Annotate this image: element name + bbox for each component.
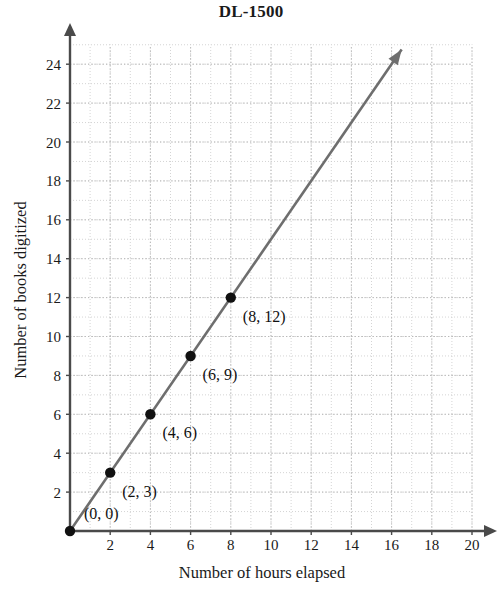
x-tick-label: 16 [384,537,400,553]
x-axis-arrow-icon [484,525,497,537]
y-tick-label: 22 [46,96,61,112]
y-tick-label: 16 [46,212,62,228]
data-point [105,467,115,477]
trend-line-arrow-icon [389,50,402,66]
y-tick-label: 18 [46,173,61,189]
y-tick-label: 12 [46,290,61,306]
x-tick-label: 12 [304,537,319,553]
data-point-label: (2, 3) [122,483,157,501]
data-point [185,351,195,361]
axes [64,23,497,537]
y-tick-label: 2 [54,485,62,501]
data-series-line [70,50,402,531]
data-point [145,409,155,419]
x-tick-label: 18 [424,537,439,553]
data-point-label: (6, 9) [203,366,238,384]
x-tick-label: 20 [465,537,480,553]
trend-line [70,50,402,531]
y-axis-arrow-icon [64,23,76,36]
y-tick-label: 8 [54,368,62,384]
y-tick-label: 4 [54,446,62,462]
x-tick-label: 10 [264,537,279,553]
x-tick-label: 14 [344,537,360,553]
data-point-label: (0, 0) [84,505,119,523]
x-tick-label: 4 [147,537,155,553]
x-tick-label: 2 [106,537,114,553]
data-point-label: (8, 12) [243,308,286,326]
chart-plot: 2468101214161820 24681012141618202224 (0… [0,0,502,593]
y-axis-tick-labels: 24681012141618202224 [46,57,62,501]
y-axis-title: Number of books digitized [11,201,30,379]
y-tick-label: 20 [46,135,61,151]
x-tick-label: 6 [187,537,195,553]
data-point [226,292,236,302]
chart-container: DL-1500 2468101214161820 246810121416182… [0,0,502,593]
x-tick-label: 8 [227,537,235,553]
x-axis-title: Number of hours elapsed [179,563,346,582]
y-tick-label: 24 [46,57,62,73]
y-tick-label: 6 [54,407,62,423]
data-point-labels: (0, 0)(2, 3)(4, 6)(6, 9)(8, 12) [84,308,285,523]
data-point-label: (4, 6) [162,424,197,442]
y-tick-label: 10 [46,329,61,345]
y-tick-label: 14 [46,251,62,267]
data-point [65,526,75,536]
x-axis-tick-labels: 2468101214161820 [106,537,479,553]
